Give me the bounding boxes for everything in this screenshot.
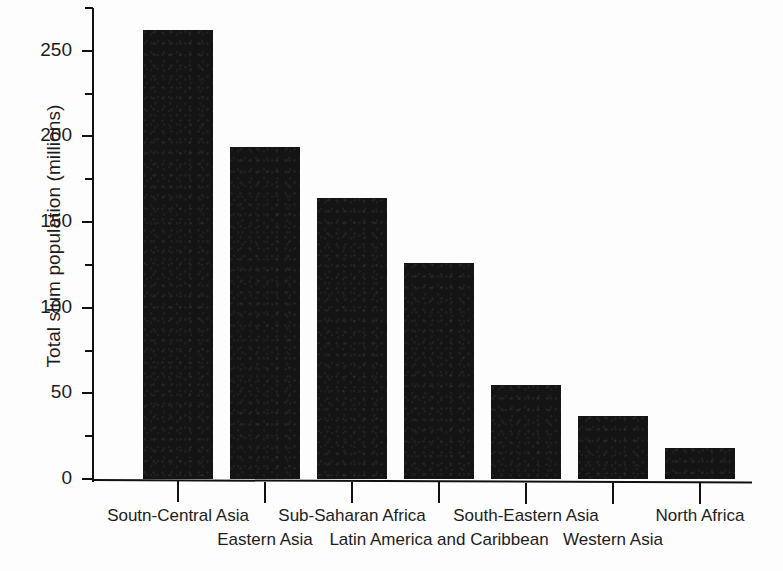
y-axis-tick-label: 200: [14, 124, 72, 146]
y-axis-tick-label: 0: [14, 467, 72, 489]
x-axis-tick: [612, 483, 614, 504]
x-axis-tick: [264, 482, 266, 503]
x-axis-label: North Africa: [656, 506, 745, 526]
x-axis-tick: [351, 482, 353, 503]
y-axis-minor-tick: [85, 264, 93, 266]
y-axis-minor-tick: [85, 7, 93, 9]
y-axis-tick: [82, 478, 93, 480]
bar: [143, 30, 213, 479]
x-axis-label: Western Asia: [563, 530, 663, 550]
y-axis-tick-label: 150: [14, 210, 72, 232]
x-axis-tick: [177, 481, 179, 502]
bar: [317, 198, 387, 479]
plot-area: [92, 8, 752, 481]
x-axis-tick: [699, 483, 701, 504]
y-axis-tick-label: 250: [14, 39, 72, 61]
y-axis-minor-tick: [85, 93, 93, 95]
bar: [230, 147, 300, 479]
y-axis-tick: [82, 50, 93, 52]
y-axis-tick: [82, 135, 93, 137]
y-axis-minor-tick: [85, 435, 93, 437]
y-axis-minor-tick: [85, 350, 93, 352]
bar: [404, 263, 474, 479]
bar: [578, 416, 648, 479]
x-axis-label: Soutn-Central Asia: [107, 506, 249, 526]
y-axis-tick-label: 100: [14, 296, 72, 318]
y-axis-tick: [82, 221, 93, 223]
x-axis-label: Sub-Saharan Africa: [278, 506, 425, 526]
y-axis-tick: [82, 392, 93, 394]
x-axis-tick: [438, 482, 440, 503]
y-axis-minor-tick: [85, 178, 93, 180]
bar-chart: Total slum population (millions) 0501001…: [0, 0, 783, 571]
bar: [665, 448, 735, 479]
x-axis-label: Eastern Asia: [217, 530, 312, 550]
x-axis-tick: [525, 483, 527, 504]
x-axis-label: Latin America and Caribbean: [329, 530, 548, 550]
x-axis-label: South-Eastern Asia: [453, 506, 599, 526]
y-axis-tick: [82, 307, 93, 309]
bar: [491, 385, 561, 479]
y-axis-tick-label: 50: [14, 381, 72, 403]
